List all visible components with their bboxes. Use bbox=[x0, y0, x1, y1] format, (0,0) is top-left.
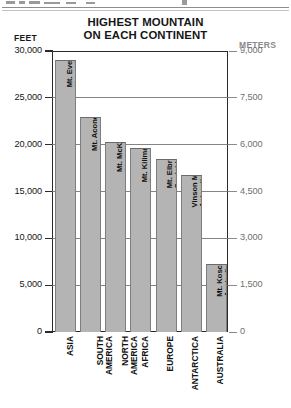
y-axis-caption-feet: FEET bbox=[14, 33, 37, 43]
bar-label-peak-line2: Alaska bbox=[124, 142, 126, 172]
scan-speck bbox=[86, 2, 95, 4]
x-axis-category-line1: ANTARCTICA bbox=[190, 336, 200, 390]
bar-label-peak-line2: Nepal-Tibet bbox=[74, 60, 76, 87]
bar-label-peak: Mt. Kosciusko,Australia bbox=[216, 264, 227, 297]
y-tick-label-feet: 5,000 bbox=[20, 279, 43, 289]
page-rule-line-secondary bbox=[2, 10, 289, 11]
y-tick-meters bbox=[229, 51, 237, 52]
chart-title: HIGHEST MOUNTAIN ON EACH CONTINENT bbox=[0, 16, 291, 42]
bar[interactable]: Mt. Elbrus,Soviet Union bbox=[156, 159, 177, 332]
bar-label-peak: Mt. Everest,Nepal-Tibet bbox=[66, 60, 77, 87]
bar[interactable]: Mt. Kosciusko,Australia bbox=[206, 264, 227, 332]
bar-label-peak-line2: Tanzania bbox=[149, 148, 151, 182]
bar-label-peak: Mt. Elbrus,Soviet Union bbox=[166, 159, 177, 188]
y-tick-meters bbox=[229, 285, 237, 286]
x-axis-category-line2: AMERICA bbox=[130, 336, 139, 375]
x-axis-category-label: AFRICA bbox=[141, 336, 150, 368]
bar-label-peak-line2: Australia bbox=[225, 264, 227, 297]
x-axis-category-line1: AUSTRALIA bbox=[215, 336, 225, 384]
x-axis-category-line1: SOUTH bbox=[95, 336, 105, 365]
bar[interactable]: Mt. Everest,Nepal-Tibet bbox=[55, 60, 76, 332]
x-axis-category-line1: NORTH bbox=[120, 336, 130, 366]
y-tick-feet bbox=[45, 50, 53, 51]
bar-label-peak: Mt. Kilimanjaro,Tanzania bbox=[141, 148, 152, 182]
y-tick-label-meters: 7,500 bbox=[240, 92, 263, 102]
y-tick-label-feet: 25,000 bbox=[14, 92, 42, 102]
bar[interactable]: Vinson Massif,Antarctica bbox=[181, 175, 202, 332]
scan-speck bbox=[19, 1, 25, 4]
y-tick-label-meters: 6,000 bbox=[240, 139, 263, 149]
scan-speck bbox=[29, 1, 40, 4]
y-tick-feet bbox=[45, 331, 53, 332]
bar[interactable]: Mt. Kilimanjaro,Tanzania bbox=[130, 148, 151, 332]
y-tick-label-meters: 0 bbox=[240, 326, 245, 336]
x-axis-category-label: AUSTRALIA bbox=[216, 336, 225, 384]
y-tick-meters bbox=[229, 144, 237, 145]
scan-artifact bbox=[0, 0, 291, 12]
x-axis-category-line1: ASIA bbox=[65, 336, 75, 356]
y-tick-label-feet: 15,000 bbox=[14, 186, 42, 196]
scan-speck bbox=[66, 2, 76, 4]
y-tick-label-feet: 20,000 bbox=[14, 139, 42, 149]
scan-speck bbox=[182, 0, 187, 5]
bar[interactable]: Mt. McKinley,Alaska bbox=[105, 142, 126, 332]
y-tick-meters bbox=[229, 191, 237, 192]
x-axis-category-label: ASIA bbox=[66, 336, 75, 356]
y-tick-label-meters: 3,000 bbox=[240, 232, 263, 242]
bar-label-peak-line2: Soviet Union bbox=[174, 159, 176, 188]
gridline bbox=[52, 97, 229, 98]
y-tick-label-feet: 30,000 bbox=[14, 45, 42, 55]
x-axis-category-label: NORTHAMERICA bbox=[121, 336, 140, 375]
gridline bbox=[52, 144, 229, 145]
bar[interactable]: Mt. Aconcagua,Argentina bbox=[80, 117, 101, 332]
y-tick-meters bbox=[229, 238, 237, 239]
y-tick-label-meters: 9,000 bbox=[240, 45, 263, 55]
x-axis-category-label: EUROPE bbox=[166, 336, 175, 371]
x-axis-category-label: ANTARCTICA bbox=[191, 336, 200, 390]
bar-label-peak: Vinson Massif,Antarctica bbox=[191, 175, 202, 208]
scan-speck bbox=[6, 1, 15, 4]
bar-label-peak-line2: Antarctica bbox=[200, 175, 202, 208]
bar-label-peak-line2: Argentina bbox=[99, 117, 101, 151]
y-tick-label-meters: 1,500 bbox=[240, 279, 263, 289]
y-tick-label-feet: 0 bbox=[37, 326, 42, 336]
y-tick-label-meters: 4,500 bbox=[240, 186, 263, 196]
scan-speck bbox=[44, 2, 60, 4]
y-tick-label-feet: 10,000 bbox=[14, 232, 42, 242]
bar-label-peak-line1: Mt. Everest, bbox=[65, 60, 74, 87]
y-tick-meters bbox=[229, 97, 237, 98]
chart-title-line1: HIGHEST MOUNTAIN bbox=[88, 16, 204, 28]
x-axis-category-line1: AFRICA bbox=[140, 336, 150, 368]
x-axis-category-label: SOUTHAMERICA bbox=[96, 336, 115, 375]
x-axis-category-line1: EUROPE bbox=[165, 336, 175, 371]
page-rule-line bbox=[2, 7, 289, 8]
bar-label-peak: Mt. McKinley,Alaska bbox=[116, 142, 127, 172]
bar-label-peak: Mt. Aconcagua,Argentina bbox=[91, 117, 102, 151]
y-tick-meters bbox=[229, 332, 237, 333]
bar-label-peak-line1: Mt. Aconcagua, bbox=[90, 117, 99, 151]
x-axis-category-line2: AMERICA bbox=[105, 336, 114, 375]
